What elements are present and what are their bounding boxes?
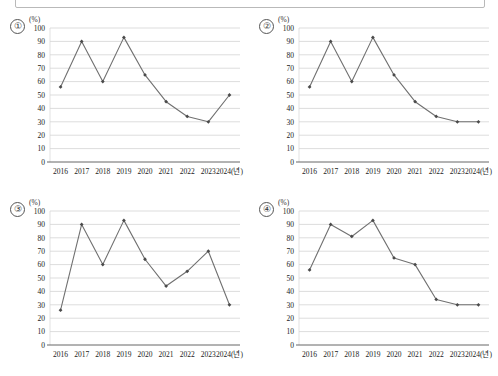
x-axis-tick-label: 2021 [159, 167, 174, 176]
y-axis-tick-label: 70 [287, 64, 295, 73]
line-chart-plot: 0102030405060708090100201620172018201920… [249, 193, 498, 376]
data-point-marker [308, 85, 312, 89]
x-axis-tick-label: 2024(년) [216, 349, 243, 359]
x-axis-tick-label: 2019 [116, 167, 131, 176]
x-axis-tick-label: 2019 [365, 167, 380, 176]
x-axis-tick-label: 2024(년) [465, 166, 492, 176]
y-axis-tick-label: 80 [287, 234, 295, 243]
y-axis-tick-label: 100 [34, 24, 46, 33]
series-line [61, 37, 230, 121]
x-axis-tick-label: 2021 [408, 167, 423, 176]
x-axis-tick-label: 2017 [74, 167, 89, 176]
data-point-marker [101, 263, 105, 267]
y-axis-tick-label: 70 [38, 64, 46, 73]
y-axis-tick-label: 20 [287, 131, 295, 140]
x-axis-tick-label: 2018 [95, 167, 110, 176]
y-axis-tick-label: 20 [38, 314, 46, 323]
x-axis-tick-label: 2022 [180, 350, 195, 359]
data-point-marker [477, 120, 481, 124]
data-point-marker [455, 120, 459, 124]
x-axis-tick-label: 2020 [387, 350, 402, 359]
x-axis-tick-label: 2023 [450, 350, 465, 359]
series-line [310, 37, 479, 121]
y-axis-tick-label: 40 [287, 287, 295, 296]
chart-option-1[interactable]: ①(%)010203040506070809010020162017201820… [0, 10, 249, 193]
data-point-marker [329, 40, 333, 44]
y-axis-tick-label: 20 [38, 131, 46, 140]
y-axis-tick-label: 80 [38, 51, 46, 60]
y-axis-tick-label: 20 [287, 314, 295, 323]
chart-option-2[interactable]: ②(%)010203040506070809010020162017201820… [249, 10, 498, 193]
x-axis-tick-label: 2022 [429, 167, 444, 176]
answer-box [15, 0, 485, 8]
y-axis-tick-label: 50 [38, 274, 46, 283]
data-point-marker [308, 268, 312, 272]
x-axis-tick-label: 2023 [201, 167, 216, 176]
y-axis-tick-label: 10 [287, 327, 295, 336]
y-axis-tick-label: 50 [38, 91, 46, 100]
y-axis-tick-label: 10 [287, 144, 295, 153]
y-axis-tick-label: 40 [38, 104, 46, 113]
x-axis-tick-label: 2021 [408, 350, 423, 359]
y-axis-tick-label: 0 [41, 158, 45, 167]
chart-options-grid: ①(%)010203040506070809010020162017201820… [0, 10, 498, 376]
data-point-marker [350, 80, 354, 84]
y-axis-tick-label: 60 [38, 260, 46, 269]
y-axis-tick-label: 10 [38, 327, 46, 336]
y-axis-tick-label: 80 [38, 234, 46, 243]
x-axis-tick-label: 2019 [116, 350, 131, 359]
x-axis-tick-label: 2017 [323, 167, 338, 176]
x-axis-tick-label: 2023 [201, 350, 216, 359]
x-axis-tick-label: 2018 [95, 350, 110, 359]
y-axis-tick-label: 90 [287, 37, 295, 46]
line-chart-plot: 0102030405060708090100201620172018201920… [249, 10, 498, 193]
x-axis-tick-label: 2024(년) [465, 349, 492, 359]
y-axis-tick-label: 40 [38, 287, 46, 296]
x-axis-tick-label: 2016 [53, 350, 68, 359]
y-axis-tick-label: 0 [290, 341, 294, 350]
x-axis-tick-label: 2018 [344, 350, 359, 359]
y-axis-tick-label: 80 [287, 51, 295, 60]
y-axis-tick-label: 50 [287, 91, 295, 100]
x-axis-tick-label: 2021 [159, 350, 174, 359]
data-point-marker [455, 303, 459, 307]
y-axis-tick-label: 100 [34, 207, 46, 216]
x-axis-tick-label: 2022 [429, 350, 444, 359]
y-axis-tick-label: 90 [38, 37, 46, 46]
x-axis-tick-label: 2022 [180, 167, 195, 176]
y-axis-tick-label: 70 [38, 247, 46, 256]
data-point-marker [80, 40, 84, 44]
y-axis-tick-label: 100 [283, 24, 295, 33]
y-axis-tick-label: 0 [290, 158, 294, 167]
y-axis-tick-label: 30 [287, 301, 295, 310]
x-axis-tick-label: 2016 [53, 167, 68, 176]
x-axis-tick-label: 2017 [323, 350, 338, 359]
y-axis-tick-label: 70 [287, 247, 295, 256]
y-axis-tick-label: 50 [287, 274, 295, 283]
y-axis-tick-label: 10 [38, 144, 46, 153]
data-point-marker [80, 223, 84, 227]
line-chart-plot: 0102030405060708090100201620172018201920… [0, 193, 249, 376]
data-point-marker [228, 303, 232, 307]
y-axis-tick-label: 100 [283, 207, 295, 216]
x-axis-tick-label: 2016 [302, 350, 317, 359]
y-axis-tick-label: 0 [41, 341, 45, 350]
x-axis-tick-label: 2020 [138, 167, 153, 176]
x-axis-tick-label: 2019 [365, 350, 380, 359]
chart-option-3[interactable]: ③(%)010203040506070809010020162017201820… [0, 193, 249, 376]
y-axis-tick-label: 60 [287, 260, 295, 269]
chart-option-4[interactable]: ④(%)010203040506070809010020162017201820… [249, 193, 498, 376]
y-axis-tick-label: 30 [287, 118, 295, 127]
y-axis-tick-label: 90 [38, 220, 46, 229]
x-axis-tick-label: 2024(년) [216, 166, 243, 176]
x-axis-tick-label: 2018 [344, 167, 359, 176]
series-line [310, 220, 479, 304]
data-point-marker [101, 80, 105, 84]
x-axis-tick-label: 2017 [74, 350, 89, 359]
data-point-marker [59, 85, 63, 89]
y-axis-tick-label: 60 [287, 77, 295, 86]
x-axis-tick-label: 2020 [387, 167, 402, 176]
y-axis-tick-label: 40 [287, 104, 295, 113]
y-axis-tick-label: 30 [38, 118, 46, 127]
series-line [61, 220, 230, 310]
